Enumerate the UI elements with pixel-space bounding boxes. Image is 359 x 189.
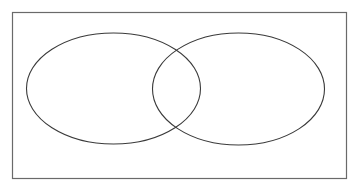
- universe-frame: [13, 13, 347, 179]
- venn-diagram: [0, 0, 359, 189]
